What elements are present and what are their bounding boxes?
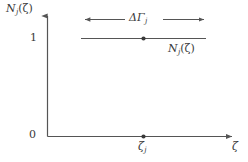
x-tick-label-subscript: j	[144, 145, 147, 154]
plateau-point-marker	[141, 36, 145, 40]
x-tick-label-zeta-j: ζj	[138, 141, 147, 154]
figure-canvas	[0, 0, 248, 162]
curve-label: Nj(ζ)	[168, 43, 195, 56]
y-axis-label: Nj(ζ)	[6, 3, 33, 16]
y-tick-label-one: 1	[30, 32, 37, 43]
interval-label: ΔΓj	[126, 12, 150, 25]
x-axis-point-marker	[141, 134, 145, 138]
step-function-figure: Nj(ζ) 1 0 ΔΓj Nj(ζ) ζj ζ	[0, 0, 248, 162]
y-axis-label-main: N	[6, 2, 16, 15]
y-tick-label-zero: 0	[29, 129, 36, 140]
y-axis-label-argument: (ζ)	[18, 2, 33, 15]
x-axis-label: ζ	[232, 141, 238, 152]
interval-label-main: ΔΓ	[129, 11, 145, 24]
curve-label-main: N	[168, 42, 178, 55]
interval-label-subscript: j	[145, 16, 148, 25]
curve-label-argument: (ζ)	[180, 42, 195, 55]
